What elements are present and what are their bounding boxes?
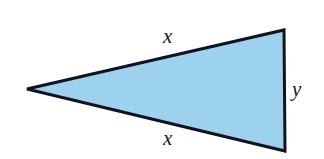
side-label-x-bottom: x — [163, 128, 172, 149]
triangle-figure: x x y — [0, 0, 324, 159]
triangle-shape — [0, 0, 324, 159]
side-label-y-right: y — [292, 79, 301, 100]
triangle-polygon — [27, 30, 285, 151]
side-label-x-top: x — [163, 26, 172, 47]
